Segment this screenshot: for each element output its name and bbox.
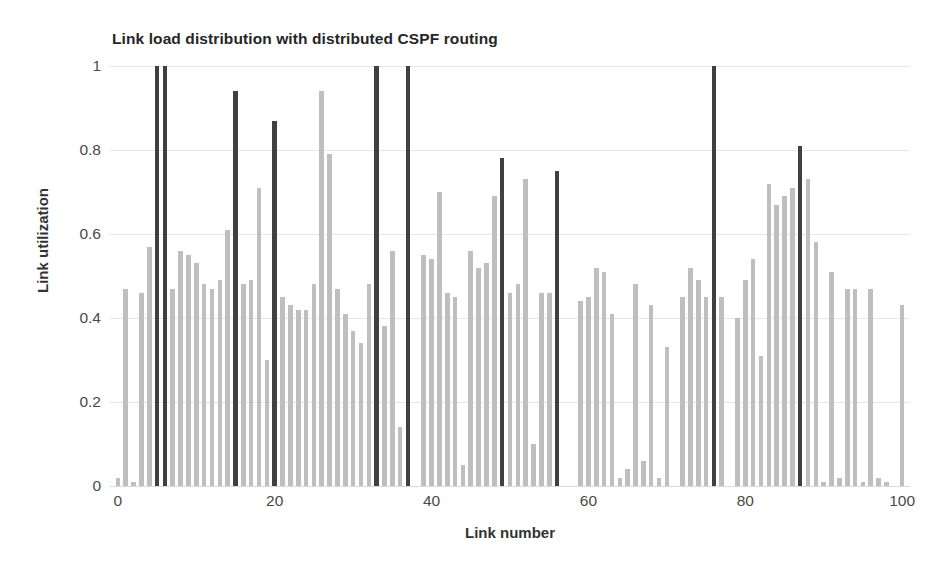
bar xyxy=(367,284,372,486)
bar xyxy=(719,297,724,486)
bar xyxy=(806,179,811,486)
bar xyxy=(147,247,152,486)
bar xyxy=(555,171,560,486)
bar xyxy=(696,280,701,486)
y-tick-label: 0.2 xyxy=(55,393,101,411)
bar xyxy=(735,318,740,486)
bar xyxy=(657,478,662,486)
bar xyxy=(186,255,191,486)
plot-area xyxy=(110,66,910,486)
bar xyxy=(633,284,638,486)
y-tick-label: 0.4 xyxy=(55,309,101,327)
bar xyxy=(798,146,803,486)
bar xyxy=(288,305,293,486)
bar xyxy=(139,293,144,486)
bar xyxy=(437,192,442,486)
bar xyxy=(453,297,458,486)
bar xyxy=(327,154,332,486)
bar xyxy=(461,465,466,486)
bar xyxy=(233,91,238,486)
bar xyxy=(649,305,654,486)
bar xyxy=(304,310,309,486)
x-tick-label: 100 xyxy=(872,492,932,510)
bar xyxy=(210,289,215,486)
bar xyxy=(225,230,230,486)
bar xyxy=(123,289,128,486)
bar xyxy=(116,478,121,486)
bar xyxy=(429,259,434,486)
bar xyxy=(500,158,505,486)
bar xyxy=(492,196,497,486)
bar xyxy=(374,66,379,486)
bar xyxy=(476,268,481,486)
bar xyxy=(359,343,364,486)
bar xyxy=(398,427,403,486)
x-tick-label: 0 xyxy=(88,492,148,510)
bar xyxy=(265,360,270,486)
bar xyxy=(665,347,670,486)
x-axis-title: Link number xyxy=(110,524,910,541)
bar xyxy=(218,280,223,486)
bar xyxy=(790,188,795,486)
x-axis-tick-labels: 020406080100 xyxy=(110,492,910,518)
bar xyxy=(759,356,764,486)
bar xyxy=(625,469,630,486)
bar xyxy=(774,205,779,486)
bar xyxy=(319,91,324,486)
bar xyxy=(406,66,411,486)
chart-title: Link load distribution with distributed … xyxy=(112,30,498,48)
bar xyxy=(194,263,199,486)
bar xyxy=(296,310,301,486)
bar xyxy=(249,280,254,486)
bar xyxy=(680,297,685,486)
bar xyxy=(508,293,513,486)
chart-figure: Link load distribution with distributed … xyxy=(0,0,934,568)
bar xyxy=(178,251,183,486)
bar xyxy=(421,255,426,486)
bar xyxy=(241,284,246,486)
bar xyxy=(390,251,395,486)
bar xyxy=(523,179,528,486)
bar-series xyxy=(110,66,910,486)
bar xyxy=(516,284,521,486)
x-tick-label: 60 xyxy=(558,492,618,510)
bar xyxy=(743,280,748,486)
bar xyxy=(280,297,285,486)
bar xyxy=(257,188,262,486)
bar xyxy=(782,196,787,486)
x-axis-line xyxy=(110,486,910,487)
bar xyxy=(602,272,607,486)
x-tick-label: 80 xyxy=(715,492,775,510)
bar xyxy=(484,263,489,486)
bar xyxy=(343,314,348,486)
bar xyxy=(351,331,356,486)
y-axis-title: Link utilization xyxy=(34,146,51,336)
y-tick-label: 1 xyxy=(55,57,101,75)
bar xyxy=(688,268,693,486)
bar xyxy=(900,305,905,486)
bar xyxy=(767,184,772,486)
bar xyxy=(853,289,858,486)
bar xyxy=(837,478,842,486)
bar xyxy=(155,66,160,486)
bar xyxy=(382,326,387,486)
y-tick-label: 0.6 xyxy=(55,225,101,243)
bar xyxy=(876,478,881,486)
bar xyxy=(704,297,709,486)
bar xyxy=(586,297,591,486)
bar xyxy=(594,268,599,486)
bar xyxy=(272,121,277,486)
bar xyxy=(163,66,168,486)
bar xyxy=(539,293,544,486)
y-axis-tick-labels: 00.20.40.60.81 xyxy=(55,0,101,568)
bar xyxy=(845,289,850,486)
x-tick-label: 40 xyxy=(402,492,462,510)
bar xyxy=(335,289,340,486)
bar xyxy=(641,461,646,486)
bar xyxy=(751,259,756,486)
bar xyxy=(170,289,175,486)
bar xyxy=(829,272,834,486)
bar xyxy=(712,66,717,486)
bar xyxy=(814,242,819,486)
bar xyxy=(578,301,583,486)
